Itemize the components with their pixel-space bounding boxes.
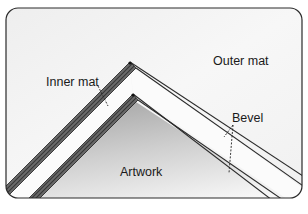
label-bevel: Bevel — [232, 111, 263, 125]
mat-diagram: Inner mat Outer mat Bevel Artwork — [0, 0, 308, 214]
label-inner-mat: Inner mat — [46, 75, 99, 89]
label-outer-mat: Outer mat — [213, 54, 269, 68]
label-artwork: Artwork — [120, 165, 163, 179]
